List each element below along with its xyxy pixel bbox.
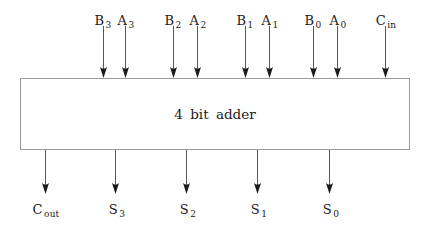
- label-subscript: 2: [200, 20, 206, 30]
- label-subscript: 2: [190, 209, 196, 219]
- input-label-B3: B3: [95, 14, 112, 30]
- adder-block-label: 4 bit adder: [20, 108, 410, 122]
- label-base: B: [237, 13, 247, 28]
- input-label-A3: A3: [118, 14, 135, 30]
- label-base: S: [180, 202, 189, 217]
- label-base: A: [118, 13, 127, 28]
- input-label-B0: B0: [305, 14, 322, 30]
- label-subscript: 2: [176, 20, 182, 30]
- output-label-S1: S1: [251, 203, 267, 219]
- input-signal-lines: [100, 26, 389, 78]
- label-base: A: [262, 13, 271, 28]
- label-subscript: 0: [316, 20, 322, 30]
- label-base: C: [376, 13, 386, 28]
- input-label-A0: A0: [330, 14, 347, 30]
- label-base: B: [305, 13, 315, 28]
- diagram-canvas: 4 bit adder B3A3B2A2B1A1B0A0Cin CoutS3S2…: [0, 0, 425, 235]
- label-base: A: [330, 13, 339, 28]
- label-subscript: 3: [119, 209, 125, 219]
- label-subscript: 0: [340, 20, 346, 30]
- input-label-A2: A2: [190, 14, 207, 30]
- input-label-Cin: Cin: [376, 14, 397, 30]
- label-subscript: in: [387, 20, 396, 30]
- label-base: S: [323, 202, 332, 217]
- label-base: C: [33, 202, 43, 217]
- label-subscript: 1: [272, 20, 278, 30]
- output-label-S2: S2: [180, 203, 196, 219]
- output-signal-lines: [42, 150, 333, 194]
- output-label-Cout: Cout: [33, 203, 60, 219]
- label-base: B: [165, 13, 175, 28]
- label-base: S: [109, 202, 118, 217]
- label-subscript: 3: [128, 20, 134, 30]
- label-base: B: [95, 13, 105, 28]
- input-label-B2: B2: [165, 14, 182, 30]
- output-label-S0: S0: [323, 203, 339, 219]
- label-base: S: [251, 202, 260, 217]
- input-label-B1: B1: [237, 14, 254, 30]
- label-subscript: 0: [333, 209, 339, 219]
- label-base: A: [190, 13, 199, 28]
- label-subscript: 3: [106, 20, 112, 30]
- label-subscript: 1: [248, 20, 254, 30]
- input-label-A1: A1: [262, 14, 279, 30]
- label-subscript: out: [44, 209, 59, 219]
- label-subscript: 1: [261, 209, 267, 219]
- output-label-S3: S3: [109, 203, 125, 219]
